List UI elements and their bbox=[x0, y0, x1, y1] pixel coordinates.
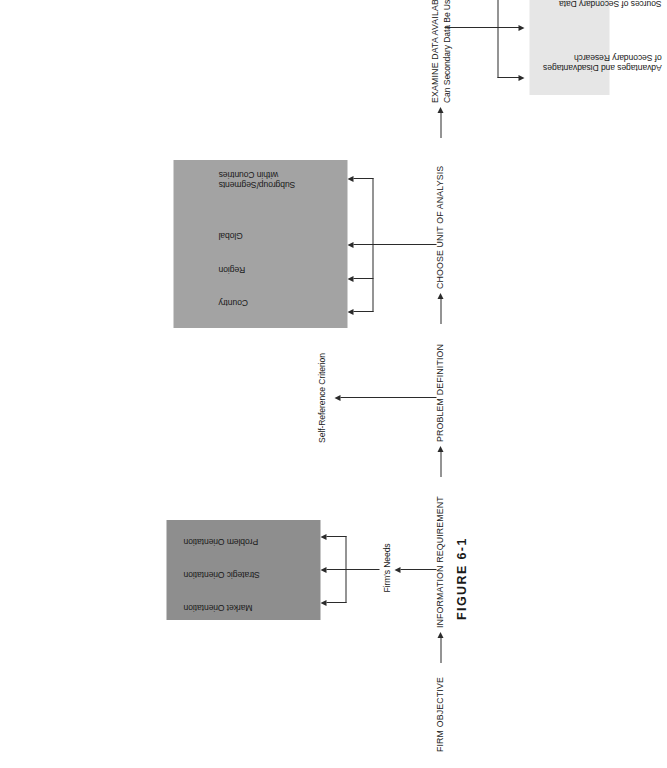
arrow-right bbox=[437, 632, 443, 638]
connector bbox=[440, 637, 441, 663]
arrow-down bbox=[518, 25, 524, 31]
spine-step-problem-definition: PROBLEM DEFINITION bbox=[434, 327, 444, 442]
arrow-right bbox=[437, 107, 443, 113]
secondary-data-box bbox=[529, 0, 609, 95]
connector bbox=[444, 27, 498, 28]
fan-leg bbox=[353, 278, 373, 279]
branch-firms-needs: Firm's Needs bbox=[381, 518, 391, 618]
secondary-data-item-0: Advantages and Disadvantagesof Secondary… bbox=[491, 53, 661, 73]
orientation-item-2: Problem Orientation bbox=[183, 537, 303, 547]
spine-step-examine-data-availability: EXAMINE DATA AVAILABILITY bbox=[429, 0, 439, 103]
unit-of-analysis-item-2: Global bbox=[218, 231, 348, 241]
unit-of-analysis-item-0: Country bbox=[218, 298, 348, 308]
arrow-up bbox=[347, 309, 353, 315]
fan-leg bbox=[353, 178, 373, 179]
fan-leg bbox=[326, 569, 346, 570]
spine-step-choose-unit-of-analysis: CHOOSE UNIT OF ANALYSIS bbox=[434, 141, 444, 289]
branch-self-reference-criterion: Self-Reference Criterion bbox=[316, 318, 326, 478]
arrow-right bbox=[437, 293, 443, 299]
fan-leg bbox=[353, 244, 373, 245]
arrow-right bbox=[437, 446, 443, 452]
arrow-up bbox=[334, 395, 340, 401]
connector bbox=[440, 112, 441, 138]
connector bbox=[440, 451, 441, 477]
arrow-up bbox=[394, 567, 400, 573]
connector bbox=[340, 397, 436, 398]
spine-step-information-requirement: INFORMATION REQUIREMENT bbox=[434, 480, 444, 628]
fan-leg bbox=[497, 77, 519, 78]
arrow-up bbox=[320, 567, 326, 573]
unit-of-analysis-item-1: Region bbox=[218, 265, 348, 275]
fan-leg bbox=[326, 536, 346, 537]
arrow-up bbox=[320, 600, 326, 606]
spine-step-examine-data-availability-sublabel: Can Secondary Data Be Used? bbox=[441, 0, 451, 103]
connector bbox=[372, 244, 436, 245]
arrow-down bbox=[518, 75, 524, 81]
arrow-up bbox=[347, 242, 353, 248]
arrow-up bbox=[320, 534, 326, 540]
connector bbox=[400, 569, 436, 570]
fan-leg bbox=[497, 27, 519, 28]
fan-leg bbox=[326, 602, 346, 603]
unit-of-analysis-item-3: Subgroup/Segmentswithin Countries bbox=[218, 170, 348, 190]
figure-caption: FIGURE 6-1 bbox=[455, 537, 469, 620]
orientation-item-1: Strategic Orientation bbox=[183, 570, 303, 580]
connector bbox=[440, 298, 441, 324]
secondary-data-item-1: Sources of Secondary Data bbox=[491, 0, 661, 9]
fan-bar bbox=[372, 178, 373, 312]
arrow-up bbox=[347, 276, 353, 282]
fan-leg bbox=[353, 311, 373, 312]
connector bbox=[345, 569, 379, 570]
orientation-item-0: Market Orientation bbox=[183, 603, 303, 613]
spine-step-firm-objective: FIRM OBJECTIVE bbox=[434, 666, 444, 752]
